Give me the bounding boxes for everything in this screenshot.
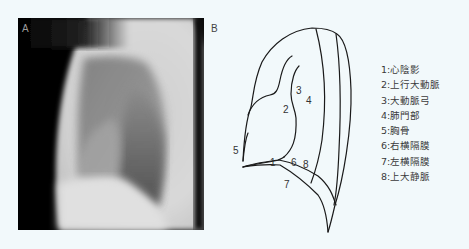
legend-num: 4 xyxy=(381,110,387,121)
legend-label: 右横隔膜 xyxy=(390,140,430,151)
legend-label: 上大静脈 xyxy=(390,171,430,182)
legend-label: 肺門部 xyxy=(390,110,420,121)
legend-num: 6 xyxy=(381,140,387,151)
legend-item-1: 1:心陰影 xyxy=(381,62,440,77)
legend-label: 心陰影 xyxy=(390,64,420,75)
legend-item-2: 2:上行大動脈 xyxy=(381,77,440,92)
diagram-label-6: 6 xyxy=(291,157,297,168)
legend-item-6: 6:右横隔膜 xyxy=(381,138,440,153)
legend-num: 7 xyxy=(381,156,387,167)
diagram-label-2: 2 xyxy=(283,104,289,115)
legend: 1:心陰影 2:上行大動脈 3:大動脈弓 4:肺門部 5:胸骨 6:右横隔膜 7… xyxy=(381,62,440,184)
diagram-label-4: 4 xyxy=(306,95,312,106)
legend-label: 上行大動脈 xyxy=(390,79,440,90)
legend-item-4: 4:肺門部 xyxy=(381,108,440,123)
diagram-label-1: 1 xyxy=(270,157,276,168)
legend-item-5: 5:胸骨 xyxy=(381,123,440,138)
legend-num: 5 xyxy=(381,125,387,136)
legend-item-7: 7:左横隔膜 xyxy=(381,154,440,169)
legend-label: 大動脈弓 xyxy=(390,95,430,106)
legend-label: 左横隔膜 xyxy=(390,156,430,167)
diagram-label-8: 8 xyxy=(303,159,309,170)
legend-num: 3 xyxy=(381,95,387,106)
legend-num: 8 xyxy=(381,171,387,182)
legend-num: 1 xyxy=(381,64,387,75)
posterior-line-2 xyxy=(334,34,340,205)
diagram-label-3: 3 xyxy=(296,85,302,96)
legend-num: 2 xyxy=(381,79,387,90)
posterior-line-1 xyxy=(311,29,324,183)
legend-item-3: 3:大動脈弓 xyxy=(381,93,440,108)
diagram-label-5: 5 xyxy=(233,145,239,156)
legend-label: 胸骨 xyxy=(390,125,410,136)
heart-base xyxy=(243,157,284,167)
legend-item-8: 8:上大静脈 xyxy=(381,169,440,184)
diagram-label-7: 7 xyxy=(284,179,290,190)
